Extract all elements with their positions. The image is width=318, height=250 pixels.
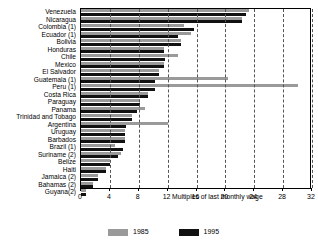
- bar-1995: [81, 88, 155, 91]
- bar-1995: [81, 80, 155, 83]
- bar-1995: [81, 155, 118, 158]
- legend-swatch-1985: [108, 229, 128, 236]
- x-tick-label-12: 12: [163, 192, 171, 201]
- bar-row: [81, 137, 310, 145]
- gridline-16: [197, 9, 198, 188]
- bar-row: [81, 152, 310, 160]
- bar-row: [81, 174, 310, 182]
- bar-row: [81, 99, 310, 107]
- legend-label-1995: 1995: [204, 228, 220, 236]
- gridline-24: [254, 9, 255, 188]
- x-tick-label-0: 0: [78, 192, 82, 201]
- bar-row: [81, 62, 310, 70]
- plot-area: [80, 8, 311, 188]
- bar-1995: [81, 118, 132, 121]
- bar-row: [81, 107, 310, 115]
- bar-row: [81, 84, 310, 92]
- bar-1995: [81, 28, 194, 31]
- bar-1995: [81, 133, 125, 136]
- severance-pay-bar-chart: VenezuelaNicaraguaColombia (1)Ecuador (1…: [0, 0, 318, 250]
- bar-1995: [81, 170, 106, 173]
- category-label: Jamaica (2): [42, 173, 76, 181]
- bar-row: [81, 47, 310, 55]
- category-label: El Salvador: [42, 68, 76, 76]
- category-label: Haiti: [63, 166, 76, 174]
- category-label: Brazil (1): [50, 143, 76, 151]
- bar-1995: [81, 13, 246, 16]
- x-tick-16: [196, 188, 197, 191]
- bar-1995: [81, 148, 123, 151]
- category-axis-labels: VenezuelaNicaraguaColombia (1)Ecuador (1…: [0, 8, 78, 188]
- legend-label-1985: 1985: [133, 228, 149, 236]
- category-label: Peru (1): [52, 83, 76, 91]
- category-label: Ecuador (1): [42, 31, 76, 39]
- bar-rows: [81, 9, 310, 188]
- gridline-4: [110, 9, 111, 188]
- bar-row: [81, 159, 310, 167]
- chart-legend: 1985 1995: [108, 228, 219, 236]
- bar-row: [81, 39, 310, 47]
- gridline-20: [225, 9, 226, 188]
- category-label: Barbados: [48, 136, 76, 144]
- category-label: Venezuela: [45, 8, 76, 16]
- bar-1995: [81, 140, 125, 143]
- bar-row: [81, 144, 310, 152]
- bar-row: [81, 77, 310, 85]
- category-label: Belize: [58, 158, 76, 166]
- category-label: Mexico: [55, 61, 76, 69]
- bar-row: [81, 17, 310, 25]
- bar-1995: [81, 50, 164, 53]
- x-tick-20: [224, 188, 225, 191]
- bar-1995: [81, 73, 159, 76]
- bar-row: [81, 9, 310, 17]
- x-axis-title: Multiples of last monthly wage: [172, 192, 263, 201]
- category-label: Guatemala (1): [34, 76, 76, 84]
- x-tick-24: [253, 188, 254, 191]
- bar-row: [81, 32, 310, 40]
- bar-1995: [81, 178, 98, 181]
- legend-swatch-1995: [179, 229, 199, 236]
- category-label: Colombia (1): [38, 23, 76, 31]
- bar-row: [81, 54, 310, 62]
- bar-1995: [81, 125, 126, 128]
- category-label: Suriname (2): [38, 151, 76, 159]
- bar-1995: [81, 35, 178, 38]
- category-label: Chile: [61, 53, 76, 61]
- category-label: Trinidad and Tobago: [16, 113, 76, 121]
- gridline-12: [168, 9, 169, 188]
- category-label: Bahamas (2): [38, 181, 76, 189]
- x-tick-label-28: 28: [278, 192, 286, 201]
- bar-1995: [81, 58, 165, 61]
- bar-row: [81, 122, 310, 130]
- bar-row: [81, 114, 310, 122]
- legend-item-1995: 1995: [179, 228, 220, 236]
- bar-row: [81, 24, 310, 32]
- category-label: Honduras: [47, 46, 76, 54]
- category-label: Costa Rica: [44, 91, 76, 99]
- x-tick-12: [167, 188, 168, 191]
- category-label: Panama: [51, 106, 76, 114]
- bar-row: [81, 69, 310, 77]
- legend-item-1985: 1985: [108, 228, 149, 236]
- category-label: Nicaragua: [46, 16, 76, 24]
- bar-1995: [81, 20, 242, 23]
- gridline-32: [312, 9, 313, 188]
- category-label: Uruguay: [51, 128, 76, 136]
- x-tick-4: [109, 188, 110, 191]
- category-label: Bolivia: [57, 38, 76, 46]
- bar-1995: [81, 110, 137, 113]
- category-label: Guyana(2): [45, 188, 76, 196]
- x-tick-label-4: 4: [107, 192, 111, 201]
- bar-1995: [81, 65, 164, 68]
- bar-1995: [81, 163, 110, 166]
- x-tick-label-32: 32: [307, 192, 315, 201]
- x-tick-0: [80, 188, 81, 191]
- gridline-28: [283, 9, 284, 188]
- gridline-8: [139, 9, 140, 188]
- x-tick-32: [311, 188, 312, 191]
- bar-row: [81, 167, 310, 175]
- x-tick-28: [282, 188, 283, 191]
- x-tick-label-8: 8: [136, 192, 140, 201]
- bar-row: [81, 129, 310, 137]
- x-tick-8: [138, 188, 139, 191]
